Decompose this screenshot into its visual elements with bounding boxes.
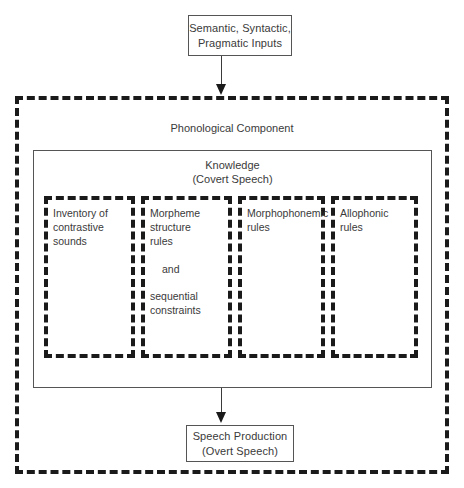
- component-label-morphophonemic-rules: Morphophonemic rules: [247, 206, 323, 234]
- inputs-box-label: Semantic, Syntactic, Pragmatic Inputs: [189, 21, 291, 51]
- component-label-morpheme-connector: and: [162, 262, 232, 276]
- knowledge-label: Knowledge (Covert Speech): [33, 158, 432, 186]
- arrow-head-icon: [216, 84, 226, 95]
- knowledge-label-line2: (Covert Speech): [192, 173, 272, 185]
- speech-production-label: Speech Production (Overt Speech): [193, 429, 288, 459]
- component-label-sequential-constraints: sequential constraints: [150, 289, 230, 317]
- speech-production-line2: (Overt Speech): [202, 445, 278, 457]
- phonological-component-diagram: Semantic, Syntactic, Pragmatic Inputs Ph…: [0, 0, 464, 488]
- inputs-box-line1: Semantic, Syntactic,: [189, 22, 291, 34]
- component-label-inventory-of-contrastive-sounds: Inventory of contrastive sounds: [53, 206, 131, 248]
- component-label-allophonic-rules: Allophonic rules: [340, 206, 416, 234]
- inputs-box: Semantic, Syntactic, Pragmatic Inputs: [188, 15, 292, 56]
- arrow-line: [221, 388, 222, 414]
- knowledge-label-line1: Knowledge: [205, 159, 259, 171]
- speech-production-line1: Speech Production: [193, 430, 288, 442]
- component-label-morpheme-structure-rules: Morpheme structure rules: [150, 206, 230, 248]
- arrow-head-icon: [216, 412, 226, 423]
- phonological-component-label: Phonological Component: [0, 121, 464, 135]
- arrow-line: [221, 56, 222, 86]
- speech-production-box: Speech Production (Overt Speech): [186, 425, 294, 462]
- inputs-box-line2: Pragmatic Inputs: [198, 37, 282, 49]
